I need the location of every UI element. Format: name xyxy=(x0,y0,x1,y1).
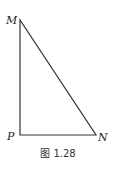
triangle-diagram: M P N 图 1.28 xyxy=(0,0,117,176)
vertex-label-n: N xyxy=(97,131,108,144)
vertex-label-p: P xyxy=(6,130,15,143)
triangle-mpn xyxy=(20,20,96,135)
vertex-label-m: M xyxy=(5,14,18,27)
figure-caption: 图 1.28 xyxy=(40,148,75,159)
